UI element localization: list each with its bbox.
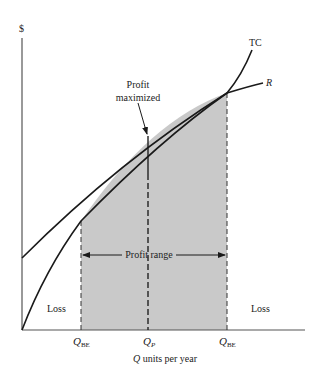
profit-range-label: Profit range [125, 249, 173, 260]
loss-left-label: Loss [47, 303, 66, 314]
qbe-left-tick-label: QBE [73, 335, 90, 349]
subscript: P [150, 341, 156, 349]
profit-max-arrow [138, 103, 147, 134]
r-label: R [265, 77, 272, 88]
loss-right-label: Loss [251, 303, 270, 314]
x-axis-title-rest: units per year [140, 353, 198, 364]
subscript: BE [81, 341, 90, 349]
q-symbol: Q [73, 335, 81, 347]
break-even-chart: $ TC R Profit maximized Profit range Los… [0, 0, 324, 377]
qp-tick-label: QP [143, 335, 156, 349]
qbe-right-tick-label: QBE [219, 335, 236, 349]
profit-max-label-line1: Profit [127, 79, 150, 90]
subscript: BE [227, 341, 236, 349]
y-axis-label: $ [19, 23, 24, 34]
profit-range-shading [81, 93, 227, 330]
q-symbol: Q [219, 335, 227, 347]
q-symbol: Q [143, 335, 151, 347]
profit-max-label-line2: maximized [116, 92, 160, 103]
x-axis-title: Q units per year [133, 353, 198, 364]
tc-label: TC [249, 37, 262, 48]
